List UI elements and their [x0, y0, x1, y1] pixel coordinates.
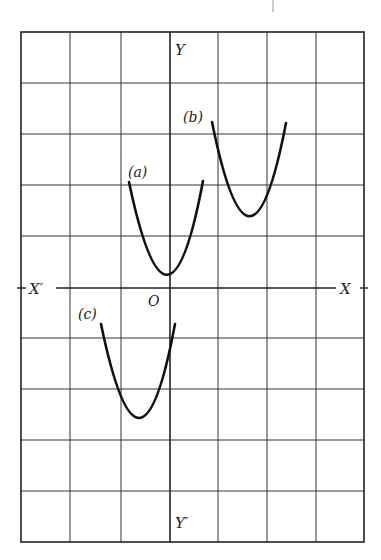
curve-label-b: (b) [183, 109, 203, 125]
origin-label: O [148, 293, 160, 309]
parabola-a [129, 181, 203, 275]
y-prime-axis-label: Y′ [175, 514, 189, 532]
curve-label-a: (a) [128, 164, 147, 180]
coordinate-diagram: Y Y′ X′ X O (a) (b) (c) [0, 0, 381, 560]
x-axis-label: X [339, 280, 352, 298]
parabola-b [212, 122, 286, 216]
curve-label-c: (c) [78, 306, 97, 322]
y-axis-label: Y [175, 41, 187, 59]
x-prime-axis-label: X′ [28, 280, 44, 298]
